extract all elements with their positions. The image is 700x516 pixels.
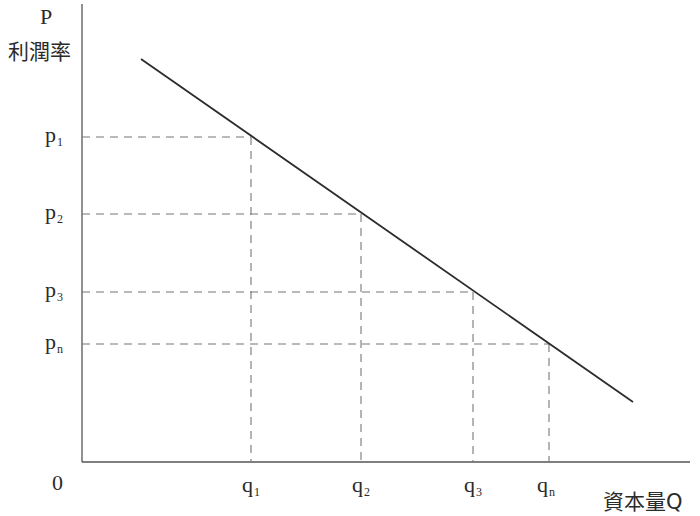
- x-tick-qn: qn: [537, 474, 555, 498]
- y-tick-p1: p1: [45, 124, 63, 148]
- y-axis-symbol: P: [40, 6, 52, 28]
- x-tick-q1: q1: [242, 474, 260, 498]
- y-axis-label: 利潤率: [8, 42, 71, 63]
- profit-rate-line: [141, 59, 633, 402]
- x-tick-q2: q2: [352, 474, 370, 498]
- y-tick-p3: p3: [45, 279, 63, 303]
- x-axis-label: 資本量Q: [603, 492, 683, 513]
- y-tick-p2: p2: [45, 201, 63, 225]
- diagram-canvas: [0, 0, 700, 516]
- x-tick-q3: q3: [464, 474, 482, 498]
- diagram: P 利潤率 p1 p2 p3 pn 0 q1 q2 q3 qn 資本量Q: [0, 0, 700, 516]
- origin-label: 0: [52, 472, 63, 494]
- y-tick-pn: pn: [45, 331, 63, 355]
